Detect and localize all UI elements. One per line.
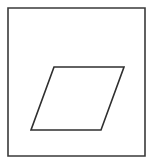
figure-canvas (0, 0, 153, 163)
figure-background (0, 0, 153, 163)
geometry-figure (0, 0, 153, 163)
